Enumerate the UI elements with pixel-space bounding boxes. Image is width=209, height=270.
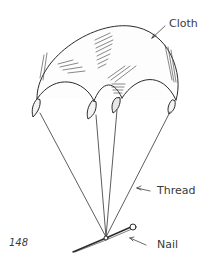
knot-1	[32, 99, 40, 117]
nail-label: Nail	[157, 239, 178, 251]
canopy-outline	[37, 26, 178, 100]
cloth-leader	[152, 26, 165, 38]
parachute-illustration: Cloth Thread Nail 148	[0, 0, 209, 270]
cloth-label: Cloth	[169, 18, 198, 30]
parachute-drawing	[0, 0, 209, 270]
nail	[73, 224, 136, 252]
knot-4	[168, 100, 175, 114]
thread-label: Thread	[157, 185, 195, 197]
nail-leader	[130, 238, 146, 245]
knot-3	[112, 98, 120, 113]
knot-2	[87, 101, 96, 119]
page-number: 148	[9, 237, 28, 248]
thread-leader	[137, 188, 150, 191]
threads	[40, 110, 170, 237]
